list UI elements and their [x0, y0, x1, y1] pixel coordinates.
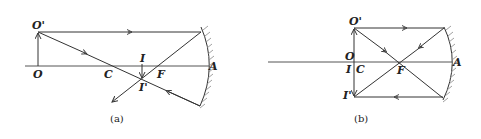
- label-O-prime: O': [349, 15, 362, 28]
- caption-b: (b): [354, 113, 368, 124]
- caption-a: (a): [110, 113, 124, 124]
- label-A: A: [452, 56, 462, 69]
- label-F: F: [156, 68, 166, 81]
- panel-a: O' O C F A I I' (a): [25, 19, 218, 124]
- label-F: F: [396, 64, 406, 77]
- label-C: C: [104, 68, 113, 81]
- reflected-ray-through-focus: [420, 28, 444, 47]
- reflected-ray-back: [168, 92, 200, 107]
- label-O: O: [345, 50, 355, 63]
- label-C: C: [356, 63, 365, 76]
- label-O: O: [33, 68, 43, 81]
- label-A: A: [208, 60, 218, 73]
- ray-diagrams: O' O C F A I I' (a): [0, 0, 481, 139]
- label-I-prime: I': [138, 81, 148, 94]
- incident-ray-through-center: [38, 32, 85, 53]
- incident-ray-through-focus: [354, 28, 385, 51]
- label-I-prime: I': [342, 89, 352, 102]
- panel-b: O' O I C F A I' (b): [268, 15, 462, 124]
- label-O-prime: O': [32, 19, 45, 32]
- label-I: I: [139, 52, 146, 65]
- label-I: I: [345, 63, 352, 76]
- reflected-ray-through-focus: [112, 32, 201, 102]
